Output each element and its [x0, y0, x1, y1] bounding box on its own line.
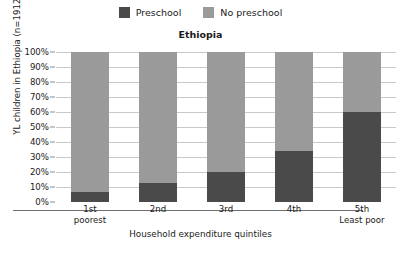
y-tick-label-10: 10%: [30, 183, 49, 192]
y-tick-label-0: 0%: [35, 198, 49, 207]
legend-square-icon-no-preschool: [203, 7, 214, 18]
stacked-bar-4th[interactable]: [275, 52, 313, 202]
y-tick-label-40: 40%: [30, 138, 49, 147]
x-tick-label-5th: 5thLeast poor: [328, 204, 396, 226]
y-tick-mark-40: [50, 142, 55, 143]
x-tick-label-main-2nd: 2nd: [150, 204, 166, 214]
x-tick-label-main-4th: 4th: [287, 204, 301, 214]
y-tick-mark-50: [50, 127, 55, 128]
legend-item-no-preschool: No preschool: [203, 7, 282, 18]
bar-segment-no-preschool-4th[interactable]: [275, 52, 313, 151]
x-tick-label-3rd: 3rd: [192, 204, 260, 226]
legend-square-icon-preschool: [119, 7, 130, 18]
y-tick-label-70: 70%: [30, 93, 49, 102]
chart-title: Ethiopia: [0, 29, 401, 40]
bar-segment-preschool-4th[interactable]: [275, 151, 313, 202]
y-axis-ticks: 0%10%20%30%40%50%60%70%80%90%100%: [23, 45, 55, 202]
x-axis-title: Household expenditure quintiles: [0, 229, 401, 239]
legend-label-no-preschool: No preschool: [220, 7, 282, 18]
y-tick-mark-60: [50, 112, 55, 113]
bar-segment-preschool-2nd[interactable]: [139, 183, 177, 203]
bar-segment-preschool-5th[interactable]: [343, 112, 381, 202]
plot-area: 0%10%20%30%40%50%60%70%80%90%100%: [23, 45, 396, 210]
y-tick-label-50: 50%: [30, 123, 49, 132]
stacked-bar-2nd[interactable]: [139, 52, 177, 202]
bar-segment-no-preschool-1st[interactable]: [71, 52, 109, 192]
bar-slot-4th: [260, 52, 328, 202]
y-tick-label-20: 20%: [30, 168, 49, 177]
bar-segment-no-preschool-5th[interactable]: [343, 52, 381, 112]
bar-segment-no-preschool-2nd[interactable]: [139, 52, 177, 183]
bar-slot-2nd: [124, 52, 192, 202]
bar-slot-5th: [328, 52, 396, 202]
x-tick-label-main-5th: 5th: [355, 204, 369, 214]
x-tick-label-main-3rd: 3rd: [219, 204, 233, 214]
y-tick-mark-70: [50, 97, 55, 98]
y-tick-mark-90: [50, 67, 55, 68]
stacked-bar-5th[interactable]: [343, 52, 381, 202]
y-tick-mark-20: [50, 172, 55, 173]
y-axis-title: YL children in Ethiopia (n=1912): [12, 0, 22, 140]
x-tick-sublabel-5th: Least poor: [328, 215, 396, 226]
y-tick-mark-80: [50, 82, 55, 83]
y-tick-label-80: 80%: [30, 78, 49, 87]
y-tick-mark-10: [50, 187, 55, 188]
bar-segment-preschool-1st[interactable]: [71, 192, 109, 203]
x-axis-tick-labels: 1stpoorest2nd3rd4th5thLeast poor: [56, 204, 396, 226]
y-tick-mark-30: [50, 157, 55, 158]
y-tick-label-100: 100%: [24, 48, 49, 57]
y-tick-label-60: 60%: [30, 108, 49, 117]
legend-item-preschool: Preschool: [119, 7, 182, 18]
bar-slot-3rd: [192, 52, 260, 202]
y-tick-label-30: 30%: [30, 153, 49, 162]
bar-group: [56, 52, 396, 202]
x-tick-label-4th: 4th: [260, 204, 328, 226]
stacked-bar-1st[interactable]: [71, 52, 109, 202]
chart-legend: Preschool No preschool: [0, 7, 401, 18]
x-tick-label-main-1st: 1st: [83, 204, 96, 214]
y-tick-mark-100: [50, 52, 55, 53]
bar-segment-preschool-3rd[interactable]: [207, 172, 245, 202]
y-tick-mark-0: [50, 202, 55, 203]
x-tick-sublabel-1st: poorest: [56, 215, 124, 226]
bar-segment-no-preschool-3rd[interactable]: [207, 52, 245, 172]
x-tick-label-2nd: 2nd: [124, 204, 192, 226]
legend-label-preschool: Preschool: [136, 7, 182, 18]
y-tick-label-90: 90%: [30, 63, 49, 72]
stacked-bar-3rd[interactable]: [207, 52, 245, 202]
bar-slot-1st: [56, 52, 124, 202]
plot-canvas: [56, 52, 396, 202]
x-tick-label-1st: 1stpoorest: [56, 204, 124, 226]
